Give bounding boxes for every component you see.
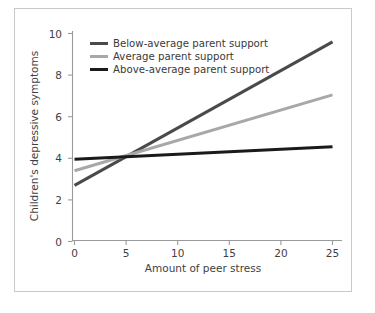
figure-container: 10 8 6 4 2 0 0 5 10 15 20 25 Amount of p… [0,0,375,313]
line-chart: 10 8 6 4 2 0 0 5 10 15 20 25 Amount of p… [0,0,375,313]
y-tick-label: 10 [49,28,62,40]
axes-group [73,31,343,241]
chart-legend: Below-average parent support Average par… [90,38,269,75]
x-axis-title: Amount of peer stress [145,262,261,274]
series-line-average [75,95,333,171]
x-tick-label: 10 [171,247,184,259]
y-tick-label: 2 [55,194,62,206]
y-tick-label: 0 [55,236,62,248]
legend-label-above-average: Above-average parent support [113,64,269,75]
y-axis-title: Children's depressive symptoms [28,51,40,221]
x-tick-label: 15 [223,247,236,259]
x-tick-label: 25 [326,247,339,259]
x-tick-label: 0 [71,247,78,259]
x-tick-label: 5 [123,247,130,259]
legend-label-below-average: Below-average parent support [113,38,268,49]
x-tick-group: 0 5 10 15 20 25 [71,241,339,260]
y-tick-label: 6 [55,111,62,123]
series-line-above-average [75,147,333,159]
y-tick-label: 8 [55,69,62,81]
legend-label-average: Average parent support [113,51,234,62]
y-tick-group: 10 8 6 4 2 0 [49,28,73,248]
y-tick-label: 4 [55,152,62,164]
x-tick-label: 20 [274,247,287,259]
